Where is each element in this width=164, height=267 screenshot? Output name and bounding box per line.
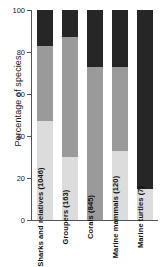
bar-slot: Corals (845)	[82, 10, 107, 220]
bar-slot: Marine turtles (7)	[133, 10, 158, 220]
bar-slot: Sharks and relatives (1046)	[32, 10, 57, 220]
bar-segment-mid-gray-segment	[62, 37, 78, 157]
bar-segment-mid-gray-segment	[87, 67, 103, 220]
y-tick-label: 60	[5, 90, 25, 99]
bar-segment-dark-segment	[137, 10, 153, 189]
y-tick-label: 80	[5, 48, 25, 57]
bar-slot: Groupers (163)	[57, 10, 82, 220]
stacked-bar[interactable]	[62, 10, 78, 220]
bar-segment-light-gray-segment	[137, 189, 153, 221]
bar-segment-dark-segment	[62, 10, 78, 37]
bar-segment-light-gray-segment	[112, 151, 128, 220]
stacked-bar[interactable]	[37, 10, 53, 220]
y-tick-label: 100	[5, 6, 25, 15]
y-tick-label: 0	[5, 216, 25, 225]
bar-segment-dark-segment	[112, 10, 128, 67]
stacked-bar[interactable]	[137, 10, 153, 220]
y-tick-label: 20	[5, 174, 25, 183]
bar-segment-light-gray-segment	[37, 121, 53, 220]
bar-segment-mid-gray-segment	[112, 67, 128, 151]
bar-segment-light-gray-segment	[62, 157, 78, 220]
y-tick-label: 40	[5, 132, 25, 141]
bar-segment-mid-gray-segment	[37, 46, 53, 122]
bar-segment-dark-segment	[37, 10, 53, 46]
stacked-bar[interactable]	[87, 10, 103, 220]
bar-segment-dark-segment	[87, 10, 103, 67]
stacked-bar[interactable]	[112, 10, 128, 220]
bar-group: Sharks and relatives (1046)Groupers (163…	[32, 10, 158, 220]
bar-slot: Marine mammals (120)	[108, 10, 133, 220]
